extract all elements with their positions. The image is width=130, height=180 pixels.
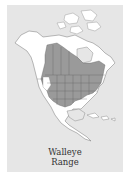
map-title-line2: Range (7, 158, 123, 167)
map-title-line1: Walleye (7, 148, 123, 157)
gulf-of-mexico (67, 109, 85, 121)
map-card: Walleye Range (7, 5, 123, 172)
arctic-islands (57, 10, 101, 34)
caribbean-islands (87, 113, 115, 121)
